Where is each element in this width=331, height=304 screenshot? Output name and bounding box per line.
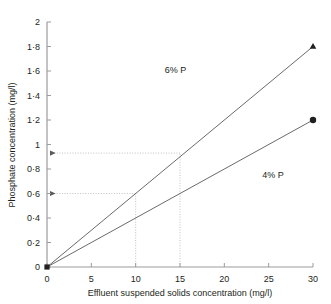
x-tick-label: 25 (264, 274, 274, 284)
y-tick-label: 2 (35, 17, 40, 27)
origin-square-marker (44, 264, 49, 269)
y-axis-title: Phosphate concentration (mg/l) (7, 82, 17, 207)
x-axis-title: Effluent suspended solids concentration … (88, 288, 272, 298)
chart-container: 00·20·40·60·811·21·41·61·82 051015202530… (0, 0, 331, 304)
guide-lines-group (50, 153, 180, 267)
phosphate-vs-solids-chart: 00·20·40·60·811·21·41·61·82 051015202530… (0, 0, 331, 304)
y-tick-label: 1·4 (27, 91, 40, 101)
x-tick-label: 20 (219, 274, 229, 284)
y-tick-label: 0·8 (27, 164, 40, 174)
x-axis-ticks: 051015202530 (44, 263, 318, 284)
y-tick-label: 1·8 (27, 42, 40, 52)
y-tick-label: 1 (35, 140, 40, 150)
y-tick-label: 0·2 (27, 238, 40, 248)
x-tick-label: 10 (131, 274, 141, 284)
x-tick-label: 30 (308, 274, 318, 284)
y-tick-label: 0 (35, 262, 40, 272)
triangle-marker (310, 43, 317, 49)
y-tick-label: 1·2 (27, 115, 40, 125)
series-line-6-p (47, 47, 313, 268)
y-tick-label: 0·6 (27, 189, 40, 199)
circle-marker (310, 117, 316, 123)
x-tick-label: 5 (89, 274, 94, 284)
y-tick-label: 1·6 (27, 66, 40, 76)
x-tick-label: 15 (175, 274, 185, 284)
y-tick-label: 0·4 (27, 213, 40, 223)
x-tick-label: 0 (44, 274, 49, 284)
series-label-4-p: 4% P (262, 170, 284, 180)
series-labels-group: 6% P4% P (165, 65, 284, 179)
series-label-6-p: 6% P (165, 65, 187, 75)
series-line-4-p (47, 120, 313, 267)
